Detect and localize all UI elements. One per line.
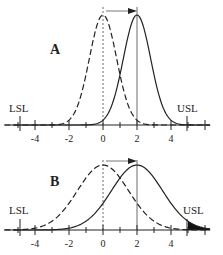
tick-label: 0	[101, 133, 106, 144]
tick-label: 2	[135, 133, 140, 144]
panel-a-arrowhead-icon	[128, 8, 137, 14]
panel-b-usl-label: USL	[183, 204, 204, 216]
process-shift-chart: A -4-2024 LSL USL B -4-2024 LSL USL	[0, 0, 223, 255]
panel-b-solid-curve	[4, 165, 210, 230]
tick-label: -2	[65, 238, 73, 249]
panel-b-tick-labels: -4-2024	[31, 238, 174, 249]
tick-label: 4	[169, 238, 174, 249]
panel-a: A -4-2024 LSL USL	[4, 7, 210, 144]
tick-label: 2	[135, 238, 140, 249]
tick-label: 0	[101, 238, 106, 249]
panel-a-usl-label: USL	[177, 102, 198, 114]
tick-label: -4	[31, 238, 39, 249]
tick-label: -4	[31, 133, 39, 144]
panel-b: B -4-2024 LSL USL	[4, 158, 210, 249]
panel-b-arrowhead-icon	[128, 158, 137, 164]
panel-a-label: A	[50, 42, 61, 57]
panel-a-lsl-label: LSL	[9, 102, 29, 114]
panel-a-tick-labels: -4-2024	[31, 133, 174, 144]
panel-b-lsl-label: LSL	[9, 204, 29, 216]
tick-label: 4	[169, 133, 174, 144]
tick-label: -2	[65, 133, 73, 144]
panel-b-label: B	[50, 174, 59, 189]
